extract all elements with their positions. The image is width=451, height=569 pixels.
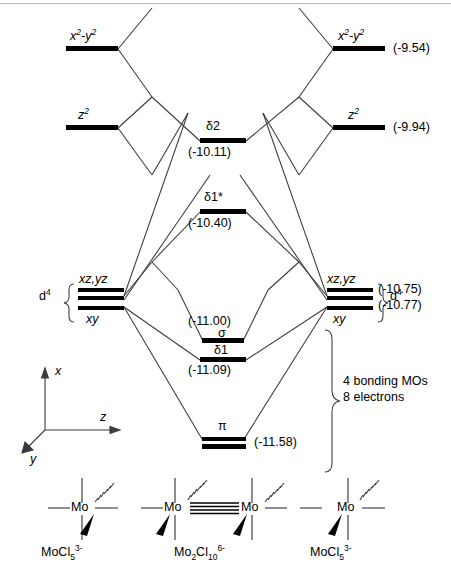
energy-mo-delta1: (-11.09) [188,364,231,377]
atom-label-center-mo-left: Mo [164,501,181,514]
energy-mo-pi: (-11.58) [254,436,297,449]
label-left-z2: z2 [78,107,89,122]
level-bar-pi-2 [202,444,246,449]
structure-right-wedge-bond [328,514,342,536]
formula-right-complex: MoCl53- [310,544,351,561]
energy-level-bars [66,46,385,449]
level-bar-right-xy [327,306,373,310]
corr-line [246,307,327,360]
axis-label-y: y [30,453,36,466]
mo-diagram-page: x2-y2 z2 xz,yz xy d4 x2-y2 z2 xz,yz xy d… [0,0,451,569]
level-bar-left-x2y2 [66,46,118,51]
structure-center-wedge-right [233,514,247,536]
energy-right-z2: (-9.94) [393,121,430,134]
corr-line [299,49,333,97]
label-left-xz-yz: xz,yz [79,273,107,286]
structure-left-hash-bond [95,483,114,502]
level-bar-delta1-star [200,209,246,214]
level-bar-left-z2 [66,125,118,130]
annotation-bonding-mos: 4 bonding MOs [343,375,428,388]
structure-right-hash-bond [360,480,379,500]
axis-label-x: x [55,365,61,378]
energy-right-xy: (-10.77) [378,299,422,312]
corr-line [118,97,152,128]
corr-line [268,262,299,290]
axis-arrow-z [110,427,120,434]
formula-left-complex: MoCl53- [41,544,82,561]
brace-left-d4 [64,284,74,322]
axis-label-z: z [100,411,106,424]
structure-center-hash-bond-left [188,480,207,500]
brace-bonding-mos [325,330,340,472]
structure-center-wedge-left [156,514,170,536]
energy-mo-delta1-star: (-10.40) [188,217,232,230]
label-left-x2y2: x2-y2 [70,28,96,43]
label-mo-delta1: δ1 [214,344,228,357]
level-bar-right-z2 [333,125,385,130]
level-bar-right-xz [327,288,373,292]
label-right-x2y2: x2-y2 [338,28,364,43]
corr-line [246,97,299,141]
axis-line-y [27,430,45,448]
energy-right-x2y2: (-9.54) [393,42,430,55]
corr-line [243,290,268,341]
label-right-xy: xy [333,313,346,326]
label-mo-delta1-star: δ1* [204,191,223,204]
corr-line [152,262,178,290]
corr-line [299,8,333,49]
atom-label-left-mo: Mo [71,501,88,514]
atom-label-center-mo-right: Mo [241,501,258,514]
atom-label-right-mo: Mo [337,501,354,514]
label-left-d-config: d4 [39,288,51,303]
label-mo-sigma: σ [218,327,226,340]
level-bar-delta1 [200,357,246,362]
energy-right-xz-yz: (-10.75) [378,283,422,296]
label-mo-pi: π [218,420,227,433]
corr-line [244,307,327,439]
structure-center-hash-bond-right [265,483,284,502]
corr-line [263,113,327,296]
corr-line [299,97,333,128]
corr-line [124,113,188,296]
label-right-z2: z2 [348,107,359,122]
annotation-electrons: 8 electrons [343,391,404,404]
label-left-xy: xy [86,313,99,326]
level-bar-pi-1 [202,437,246,441]
energy-mo-delta2: (-10.11) [188,146,231,159]
corr-line [240,175,327,300]
level-bar-left-yz [78,296,124,300]
level-bar-left-xz [78,288,124,292]
formula-center-dimer: Mo2Cl106- [174,544,225,561]
level-bar-delta2 [200,138,246,143]
corr-line [246,212,299,262]
corr-line [124,175,210,300]
corr-line [118,128,152,175]
corr-line [299,128,333,175]
level-bar-right-yz [327,296,373,300]
axis-arrow-x [42,368,49,378]
level-bar-right-x2y2 [333,46,385,51]
corr-line [118,8,152,49]
corr-line [118,49,152,97]
label-right-xz-yz: xz,yz [327,273,355,286]
label-mo-delta2: δ2 [206,120,220,133]
quadruple-bond [190,503,239,514]
level-bar-left-xy [78,306,124,310]
